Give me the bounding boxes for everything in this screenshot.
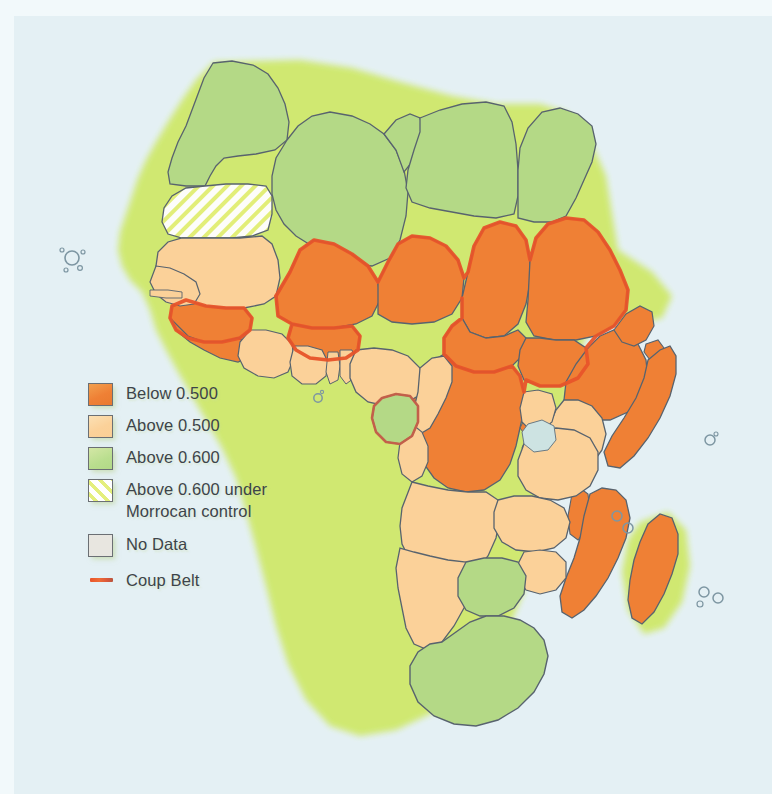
map-page: { "map": { "title": "Africa Human Develo…: [0, 0, 772, 794]
legend-label-above-0600: Above 0.600: [126, 446, 220, 468]
region-western-sahara: [162, 184, 272, 238]
legend-item-morrocan-control[interactable]: Above 0.600 under Morrocan control: [88, 478, 318, 524]
region-zambia: [494, 496, 570, 552]
legend-item-coup-belt[interactable]: Coup Belt: [88, 569, 318, 591]
legend-label-below-0500: Below 0.500: [126, 382, 218, 404]
legend-label-no-data: No Data: [126, 533, 187, 555]
swatch-coup-belt-icon: [88, 569, 113, 592]
legend-label-above-0500: Above 0.500: [126, 414, 220, 436]
region-togo: [326, 352, 340, 384]
legend-item-below-0500[interactable]: Below 0.500: [88, 382, 318, 408]
swatch-below-0500-icon: [88, 383, 113, 406]
legend-item-no-data[interactable]: No Data: [88, 533, 318, 559]
region-gambia: [150, 290, 182, 298]
legend-label-morrocan-control: Above 0.600 under Morrocan control: [126, 478, 267, 522]
legend-label-coup-belt: Coup Belt: [126, 569, 199, 591]
map-legend: Below 0.500 Above 0.500 Above 0.600 Abov…: [88, 382, 318, 597]
swatch-morrocan-control-icon: [88, 479, 113, 502]
swatch-above-0500-icon: [88, 415, 113, 438]
swatch-no-data-icon: [88, 534, 113, 557]
legend-item-above-0500[interactable]: Above 0.500: [88, 414, 318, 440]
swatch-above-0600-icon: [88, 447, 113, 470]
legend-item-above-0600[interactable]: Above 0.600: [88, 446, 318, 472]
region-libya: [406, 102, 518, 218]
